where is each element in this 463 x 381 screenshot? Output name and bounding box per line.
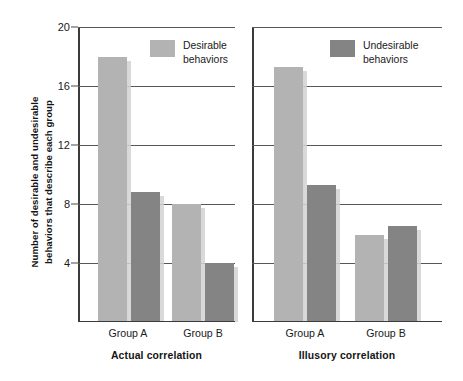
x-label-actual-group-b: Group B [183, 327, 222, 339]
bars-illusory [252, 27, 442, 322]
bar-illusory-groupA-undesirable [307, 185, 336, 322]
y-tick-label-4: 4 [44, 258, 70, 269]
bar-fill [205, 263, 234, 322]
panel-title-illusory: Illusory correlation [252, 350, 442, 361]
panel-actual-correlation: Group A Group B Actual correlation Desir… [78, 0, 235, 381]
y-tick-label-12: 12 [44, 140, 70, 151]
x-axis-line-illusory [252, 321, 442, 323]
legend-desirable: Desirable behaviors [150, 39, 228, 66]
bar-shadow [336, 189, 340, 322]
bar-shadow [160, 196, 164, 322]
bar-fill [307, 185, 336, 322]
bar-actual-groupB-undesirable [205, 263, 234, 322]
panel-title-actual: Actual correlation [78, 350, 235, 361]
y-tick-mark-20 [71, 27, 78, 28]
bar-illusory-groupA-desirable [274, 67, 303, 322]
bar-fill [355, 235, 384, 322]
y-tick-mark-8 [71, 204, 78, 205]
plot-area-actual [78, 27, 235, 322]
bar-shadow [417, 230, 421, 322]
bar-illusory-groupB-undesirable [388, 226, 417, 322]
bar-fill [388, 226, 417, 322]
x-label-actual-group-a: Group A [109, 327, 148, 339]
x-axis-line-actual [78, 321, 235, 323]
legend-label-undesirable-line-1: Undesirable [363, 39, 418, 53]
bar-fill [98, 57, 127, 323]
y-tick-label-16: 16 [44, 81, 70, 92]
legend-label-undesirable-line-2: behaviors [363, 53, 418, 67]
illusory-correlation-figure: Number of desirable and undesirable beha… [0, 0, 463, 381]
bar-fill [172, 204, 201, 322]
x-label-illusory-group-b: Group B [366, 327, 405, 339]
y-tick-mark-4 [71, 263, 78, 264]
legend-label-desirable-line-1: Desirable [183, 39, 228, 53]
bar-actual-groupB-desirable [172, 204, 201, 322]
y-tick-label-8: 8 [44, 199, 70, 210]
bar-illusory-groupB-desirable [355, 235, 384, 322]
legend-swatch-undesirable-icon [330, 40, 355, 57]
bar-shadow [234, 267, 238, 322]
x-axis-labels-illusory: Group A Group B [252, 327, 442, 343]
x-label-illusory-group-a: Group A [286, 327, 325, 339]
y-tick-label-20: 20 [44, 22, 70, 33]
bar-actual-groupA-desirable [98, 57, 127, 323]
y-axis-tick-labels: 20 16 12 8 4 [44, 0, 70, 381]
panel-illusory-correlation: Group A Group B Illusory correlation Und… [252, 0, 442, 381]
bars-actual [78, 27, 235, 322]
bar-fill [131, 192, 160, 322]
x-axis-labels-actual: Group A Group B [78, 327, 235, 343]
plot-area-illusory [252, 27, 442, 322]
y-tick-mark-12 [71, 145, 78, 146]
legend-label-desirable: Desirable behaviors [183, 39, 228, 66]
y-tick-mark-16 [71, 86, 78, 87]
bar-actual-groupA-undesirable [131, 192, 160, 322]
y-axis-title-line-1: Number of desirable and undesirable [28, 97, 43, 268]
legend-label-desirable-line-2: behaviors [183, 53, 228, 67]
legend-swatch-desirable-icon [150, 40, 175, 57]
legend-undesirable: Undesirable behaviors [330, 39, 418, 66]
bar-fill [274, 67, 303, 322]
legend-label-undesirable: Undesirable behaviors [363, 39, 418, 66]
